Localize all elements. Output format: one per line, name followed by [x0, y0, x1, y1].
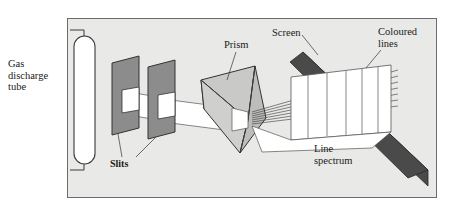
leader-slits-a [118, 134, 122, 157]
gas-discharge-tube [74, 36, 95, 164]
label-slits: Slits [110, 158, 128, 170]
leader-screen [302, 35, 318, 55]
second-slit-plate [148, 60, 175, 139]
label-coloured-lines: Coloured lines [378, 26, 438, 49]
label-screen: Screen [272, 27, 301, 39]
label-prism: Prism [224, 39, 249, 51]
label-gas-discharge-tube: Gas discharge tube [8, 58, 64, 93]
leader-slits-b [136, 137, 156, 157]
leader-coloured-lines [366, 50, 381, 68]
first-slit-plate [112, 56, 139, 135]
triangular-prism [201, 66, 266, 153]
label-line-spectrum: Line spectrum [314, 143, 374, 166]
figure-root: Gas discharge tube Slits Prism Screen Co… [0, 0, 453, 220]
